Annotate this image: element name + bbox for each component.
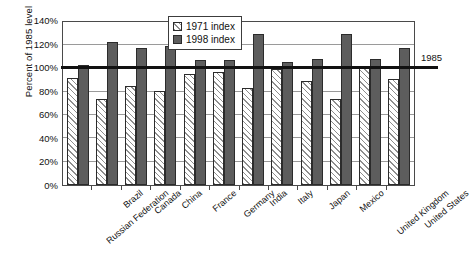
annotation-1985-label: 1985: [421, 52, 442, 63]
legend-label-1971: 1971 index: [186, 21, 235, 32]
bar-group: [326, 22, 355, 185]
y-tick-label: 140%: [24, 16, 58, 26]
legend-item-1971: 1971 index: [173, 20, 235, 33]
bar-1971: [184, 74, 195, 185]
legend-item-1998: 1998 index: [173, 33, 235, 46]
y-axis-tick-labels: 140%120%100%80%60%40%20%0%: [20, 0, 58, 263]
x-tick-label: China: [180, 188, 204, 211]
y-tick-label: 120%: [24, 40, 58, 50]
bar-1998: [107, 42, 118, 185]
bar-1971: [359, 66, 370, 185]
chart-legend: 1971 index 1998 index: [168, 16, 242, 50]
bar-1971: [213, 72, 224, 185]
bar-1998: [370, 59, 381, 185]
y-tick-label: 40%: [24, 134, 58, 144]
x-tick-label: Mexico: [358, 188, 386, 214]
bar-1971: [154, 91, 165, 185]
bar-1971: [388, 79, 399, 185]
bar-1971: [96, 99, 107, 185]
x-tick-label: Italy: [296, 188, 315, 206]
bar-1998: [78, 65, 89, 185]
bar-1971: [125, 86, 136, 185]
bar-1998: [195, 60, 206, 185]
y-tick-label: 20%: [24, 157, 58, 167]
bar-group: [239, 22, 268, 185]
legend-swatch-1998-icon: [173, 35, 182, 44]
legend-swatch-1971-icon: [173, 22, 182, 31]
bar-1971: [330, 99, 341, 185]
x-tick-label: France: [210, 188, 238, 214]
bar-group: [92, 22, 121, 185]
bar-group: [356, 22, 385, 185]
y-tick-label: 0%: [24, 181, 58, 191]
bar-1998: [282, 62, 293, 185]
reference-line-1985: [61, 66, 438, 68]
bar-group: [268, 22, 297, 185]
bar-1971: [67, 78, 78, 185]
bar-group: [122, 22, 151, 185]
bar-1998: [253, 34, 264, 185]
x-axis-tick-labels: Russian FederationBrazilCanadaChinaFranc…: [62, 188, 415, 263]
bar-1998: [224, 60, 235, 185]
bar-1971: [301, 81, 312, 185]
bar-1971: [271, 69, 282, 185]
y-tick-label: 100%: [24, 63, 58, 73]
bar-group: [385, 22, 414, 185]
bar-1998: [312, 59, 323, 185]
y-tick-label: 60%: [24, 110, 58, 120]
bar-group: [63, 22, 92, 185]
bar-group: [297, 22, 326, 185]
x-tick-label: Japan: [327, 188, 352, 211]
legend-label-1998: 1998 index: [186, 34, 235, 45]
y-tick-label: 80%: [24, 87, 58, 97]
bar-1971: [242, 88, 253, 185]
bar-1998: [341, 34, 352, 185]
